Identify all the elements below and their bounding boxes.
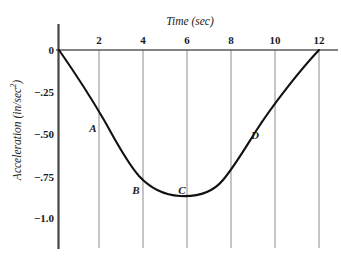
x-tick-label-6: 6 <box>184 35 190 46</box>
y-axis-title: Acceleration (in/sec2) <box>10 80 23 180</box>
y-tick-label-n10: −1.0 <box>34 213 54 224</box>
y-tick-label-0: 0 <box>49 45 55 56</box>
x-tick-label-10: 10 <box>270 35 281 46</box>
acceleration-curve <box>59 50 319 196</box>
y-tick-label-n025: −.25 <box>34 87 54 98</box>
y-tick-label-n075: −.75 <box>34 172 54 183</box>
curve-point-label-a: A <box>89 123 96 134</box>
curve-point-label-c: C <box>178 185 185 196</box>
x-tick-label-8: 8 <box>228 35 234 46</box>
acceleration-time-chart: Time (sec) 2 4 6 8 10 12 Acceleration (i… <box>0 0 341 265</box>
x-axis-title: Time (sec) <box>166 16 214 28</box>
x-tick-label-12: 12 <box>314 35 325 46</box>
curve-point-label-d: D <box>251 130 259 141</box>
gridlines <box>99 50 319 248</box>
y-axis-title-text: Acceleration (in/sec <box>11 88 23 180</box>
x-tick-label-4: 4 <box>140 35 146 46</box>
y-axis-title-close-paren: ) <box>11 80 23 84</box>
y-axis-title-exponent: 2 <box>9 84 18 88</box>
y-tick-label-n050: −.50 <box>34 129 54 140</box>
x-tick-label-2: 2 <box>96 35 102 46</box>
curve-point-label-b: B <box>132 185 139 196</box>
